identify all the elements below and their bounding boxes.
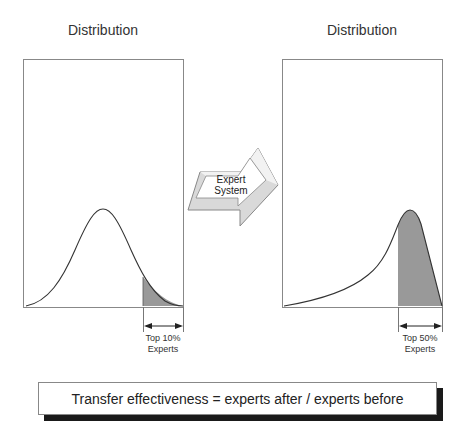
left-distribution-frame [24, 60, 184, 308]
diagram-canvas [0, 0, 463, 425]
left-top10-shaded-area [143, 277, 183, 306]
right-highlight-label-line1: Top 50% [390, 333, 450, 344]
arrow-label-line2: System [206, 185, 256, 196]
left-highlight-label-line2: Experts [133, 344, 193, 355]
right-highlight-label-line2: Experts [390, 344, 450, 355]
arrow-label-line1: Expert [206, 174, 256, 185]
left-highlight-label: Top 10% Experts [133, 333, 193, 355]
left-highlight-label-line1: Top 10% [133, 333, 193, 344]
right-highlight-label: Top 50% Experts [390, 333, 450, 355]
right-top50-shaded-area [398, 210, 442, 306]
formula-box: Transfer effectiveness = experts after /… [38, 382, 437, 415]
left-bell-curve [26, 209, 183, 306]
arrow-label: Expert System [206, 174, 256, 196]
formula-text: Transfer effectiveness = experts after /… [72, 391, 404, 407]
